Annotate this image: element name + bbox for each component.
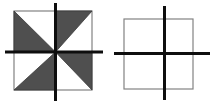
shaded-triangle-bottom-right xyxy=(56,52,93,90)
shaded-triangle-top-left xyxy=(14,11,56,52)
shaded-triangle-top-right xyxy=(56,11,93,52)
blank-square-figure xyxy=(114,6,210,100)
shaded-triangle-bottom-left xyxy=(14,52,56,90)
geometry-figures-svg xyxy=(0,0,222,106)
figure-canvas xyxy=(0,0,222,106)
pinwheel-square-figure xyxy=(5,3,103,101)
